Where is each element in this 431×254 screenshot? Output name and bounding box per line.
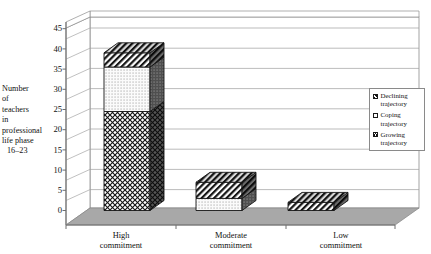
bar-segment-high-growing[interactable]: [104, 102, 164, 211]
bar-group-high-commitment[interactable]: [104, 43, 164, 211]
x-axis-label-low-commitment: Low commitment: [296, 231, 386, 251]
legend-swatch-coping-icon: [373, 113, 378, 118]
bar-segment-high-declining[interactable]: [104, 43, 164, 67]
x-axis-label-moderate-commitment: Moderate commitment: [186, 231, 276, 251]
x-axis-label-moderate-line-1: Moderate: [186, 231, 276, 241]
bar-group-moderate-commitment[interactable]: [196, 172, 256, 210]
x-axis-label-high-line-2: commitment: [76, 241, 166, 251]
legend-label-declining-line-2: trajectory: [381, 100, 408, 108]
x-axis: [66, 225, 395, 229]
legend-label-declining: Declining trajectory: [381, 92, 408, 108]
plot-area: [0, 0, 431, 254]
x-axis-label-high-line-1: High: [76, 231, 166, 241]
legend-label-declining-line-1: Declining: [381, 92, 408, 100]
legend-label-growing-line-2: trajectory: [381, 139, 407, 147]
legend-label-growing: Growing trajectory: [381, 131, 407, 147]
legend-item-growing[interactable]: Growing trajectory: [373, 131, 422, 147]
x-axis-label-low-line-1: Low: [296, 231, 386, 241]
y-axis: [63, 22, 67, 225]
legend-label-growing-line-1: Growing: [381, 131, 407, 139]
legend-label-coping: Coping trajectory: [381, 111, 407, 127]
x-axis-label-low-line-2: commitment: [296, 241, 386, 251]
bar-segment-moderate-declining[interactable]: [196, 172, 256, 198]
legend-swatch-growing-icon: [373, 132, 378, 137]
legend-label-coping-line-2: trajectory: [381, 120, 407, 128]
legend-swatch-declining-icon: [373, 94, 378, 99]
legend-item-declining[interactable]: Declining trajectory: [373, 92, 422, 108]
x-axis-label-moderate-line-2: commitment: [186, 241, 276, 251]
legend-label-coping-line-1: Coping: [381, 111, 407, 119]
chart-container: Number of teachers in professional life …: [0, 0, 431, 254]
chart-legend: Declining trajectory Coping trajectory G…: [369, 88, 425, 151]
legend-item-coping[interactable]: Coping trajectory: [373, 111, 422, 127]
x-axis-label-high-commitment: High commitment: [76, 231, 166, 251]
